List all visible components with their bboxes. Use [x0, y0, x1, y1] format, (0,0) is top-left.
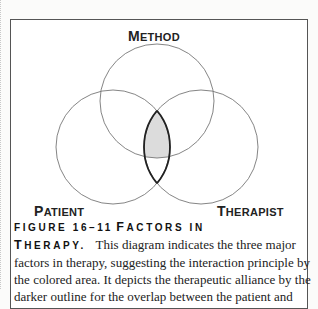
caption-line-3: the colored area. It depicts the therape…: [14, 271, 306, 288]
caption-line-4: darker outline for the overlap between t…: [14, 288, 306, 305]
figure-caption: FIGURE 16–11 FACTORS IN THERAPY. This di…: [14, 218, 306, 305]
method-label: METHOD: [128, 28, 180, 44]
caption-line-2: factors in therapy, suggesting the inter…: [14, 254, 306, 271]
patient-label: PATIENT: [34, 203, 84, 219]
therapist-label: THERAPIST: [217, 203, 284, 219]
figure-number: FIGURE 16–11: [14, 222, 113, 233]
caption-title-line: FIGURE 16–11 FACTORS IN: [14, 218, 306, 236]
caption-line-1: THERAPY. This diagram indicates the thre…: [14, 236, 306, 254]
shaded-intersection: [100, 44, 214, 158]
